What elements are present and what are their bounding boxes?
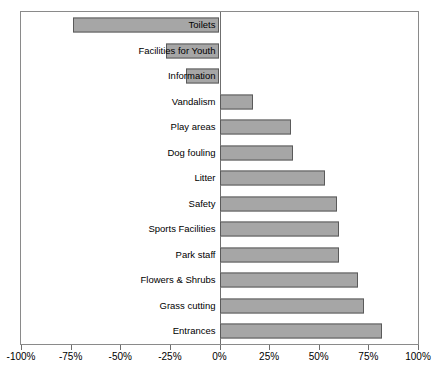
x-axis-tick xyxy=(71,345,72,350)
bar-row: Litter xyxy=(21,165,418,191)
plot-area: ToiletsFacilities for YouthInformationVa… xyxy=(21,12,418,344)
bar xyxy=(220,120,291,135)
bar xyxy=(220,273,359,288)
x-axis-tick-label: 100% xyxy=(405,352,431,362)
category-label: Flowers & Shrubs xyxy=(141,275,220,285)
x-axis-tick-label: 50% xyxy=(309,352,329,362)
category-label: Sports Facilities xyxy=(148,224,219,234)
bar xyxy=(220,298,365,313)
x-axis-tick-label: 75% xyxy=(358,352,378,362)
x-axis-tick-label: -50% xyxy=(109,352,132,362)
category-label: Play areas xyxy=(171,122,220,132)
bar-row: Sports Facilities xyxy=(21,216,418,242)
bar-row: Vandalism xyxy=(21,89,418,115)
x-axis-tick xyxy=(120,345,121,350)
x-axis-tick xyxy=(170,345,171,350)
bar xyxy=(220,145,293,160)
bar-row: Information xyxy=(21,63,418,89)
x-axis-tick-label: 25% xyxy=(259,352,279,362)
bar xyxy=(220,222,339,237)
bar-row: Park staff xyxy=(21,242,418,268)
category-label: Park staff xyxy=(176,250,220,260)
x-axis-tick xyxy=(368,345,369,350)
category-label: Facilities for Youth xyxy=(138,46,219,56)
bar xyxy=(220,196,337,211)
bar-row: Grass cutting xyxy=(21,293,418,319)
category-label: Litter xyxy=(194,173,219,183)
x-axis-tick xyxy=(21,345,22,350)
x-axis-tick-label: -25% xyxy=(158,352,181,362)
bar xyxy=(220,247,339,262)
bar-row: Safety xyxy=(21,191,418,217)
x-axis-tick xyxy=(418,345,419,350)
category-label: Entrances xyxy=(173,326,220,336)
plot-frame: ToiletsFacilities for YouthInformationVa… xyxy=(20,11,419,345)
category-label: Grass cutting xyxy=(160,301,220,311)
bar-row: Dog fouling xyxy=(21,140,418,166)
x-axis-tick-label: -75% xyxy=(59,352,82,362)
bar xyxy=(220,94,254,109)
x-axis-tick xyxy=(220,345,221,350)
bar xyxy=(220,324,383,339)
category-label: Vandalism xyxy=(172,97,220,107)
category-label: Toilets xyxy=(189,20,220,30)
bar-row: Play areas xyxy=(21,114,418,140)
bar-row: Flowers & Shrubs xyxy=(21,267,418,293)
x-axis-tick xyxy=(269,345,270,350)
category-label: Safety xyxy=(189,199,220,209)
x-axis-tick-label: 0% xyxy=(212,352,226,362)
bar-row: Entrances xyxy=(21,318,418,344)
bar-row: Toilets xyxy=(21,12,418,38)
bar-row: Facilities for Youth xyxy=(21,38,418,64)
bar-chart: ToiletsFacilities for YouthInformationVa… xyxy=(0,0,443,377)
category-label: Dog fouling xyxy=(167,148,219,158)
x-axis-tick-label: -100% xyxy=(7,352,36,362)
bar xyxy=(220,171,325,186)
x-axis-tick xyxy=(319,345,320,350)
category-label: Information xyxy=(168,71,220,81)
